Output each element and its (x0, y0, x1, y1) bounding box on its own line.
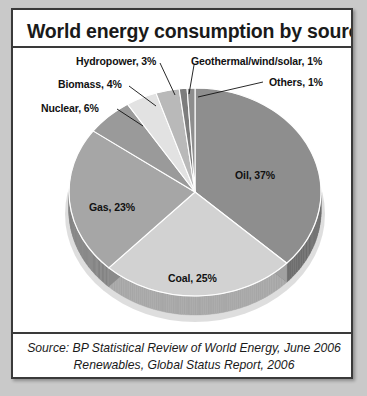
pie-slice-label-gas: Gas, 23% (89, 201, 135, 213)
pie-slice-label-geothermal-wind-solar: Geothermal/wind/solar, 1% (191, 55, 322, 67)
pie-slice-label-coal: Coal, 25% (168, 272, 217, 284)
chart-card: World energy consumption by source Oil, … (11, 8, 353, 379)
pie-slice-label-nuclear: Nuclear, 6% (41, 102, 99, 114)
source-note: Source: BP Statistical Review of World E… (13, 340, 353, 374)
source-line-secondary: Renewables, Global Status Report, 2006 (13, 357, 353, 374)
source-divider (13, 332, 353, 334)
source-line-primary: Source: BP Statistical Review of World E… (13, 340, 353, 357)
pie-chart: Oil, 37%Coal, 25%Gas, 23%Nuclear, 6%Biom… (13, 10, 353, 379)
pie-slice-label-biomass: Biomass, 4% (58, 78, 122, 90)
pie-slice-label-oil: Oil, 37% (235, 169, 275, 181)
pie-slice-label-others: Others, 1% (269, 76, 323, 88)
pie-slice-label-hydropower: Hydropower, 3% (76, 55, 156, 67)
